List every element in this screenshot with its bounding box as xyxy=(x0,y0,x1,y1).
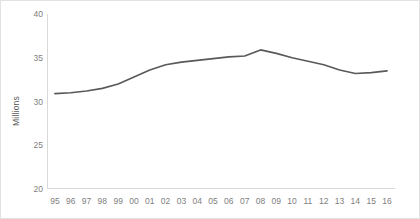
x-tick-label-00: 00 xyxy=(126,194,142,212)
x-tick-label-15: 15 xyxy=(363,194,379,212)
x-tick-label-16: 16 xyxy=(379,194,395,212)
x-tick-label-05: 05 xyxy=(205,194,221,212)
x-tick-label-02: 02 xyxy=(158,194,174,212)
x-tick-label-06: 06 xyxy=(221,194,237,212)
y-tick-label-30: 30 xyxy=(21,97,43,107)
series-line-millions xyxy=(55,50,387,94)
x-tick-label-98: 98 xyxy=(94,194,110,212)
x-tick-label-99: 99 xyxy=(110,194,126,212)
chart-container: Millions 20 25 30 35 40 95 96 97 98 99 0… xyxy=(0,0,420,219)
x-tick-label-03: 03 xyxy=(174,194,190,212)
y-tick-label-25: 25 xyxy=(21,140,43,150)
x-axis-tick-labels: 95 96 97 98 99 00 01 02 03 04 05 06 07 0… xyxy=(47,194,395,212)
x-tick-label-12: 12 xyxy=(316,194,332,212)
x-tick-label-08: 08 xyxy=(253,194,269,212)
y-axis-tick-labels: 20 25 30 35 40 xyxy=(21,1,43,219)
x-tick-label-96: 96 xyxy=(63,194,79,212)
x-tick-label-04: 04 xyxy=(189,194,205,212)
y-tick-label-35: 35 xyxy=(21,53,43,63)
x-tick-label-09: 09 xyxy=(268,194,284,212)
y-axis-title-label: Millions xyxy=(11,96,21,126)
line-chart-svg xyxy=(47,14,395,189)
plot-area xyxy=(47,14,395,189)
x-tick-label-14: 14 xyxy=(347,194,363,212)
x-tick-label-97: 97 xyxy=(79,194,95,212)
x-tick-label-13: 13 xyxy=(332,194,348,212)
y-tick-label-20: 20 xyxy=(21,184,43,194)
x-tick-label-07: 07 xyxy=(237,194,253,212)
x-tick-label-10: 10 xyxy=(284,194,300,212)
x-tick-label-11: 11 xyxy=(300,194,316,212)
y-tick-label-40: 40 xyxy=(21,9,43,19)
x-tick-label-95: 95 xyxy=(47,194,63,212)
x-tick-label-01: 01 xyxy=(142,194,158,212)
